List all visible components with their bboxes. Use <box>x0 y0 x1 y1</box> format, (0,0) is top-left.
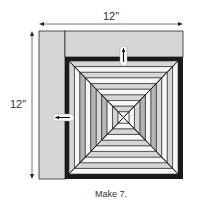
ring-segment <box>145 89 150 146</box>
ring-segment <box>69 168 178 174</box>
ring-segment <box>102 95 146 101</box>
caption-text: Make 7. <box>95 189 127 199</box>
height-dimension-label: 12" <box>10 99 26 110</box>
ring-segment <box>85 151 161 157</box>
quilt-block-diagram <box>0 0 198 204</box>
ring-segment <box>80 72 85 162</box>
width-dimension-line <box>39 22 183 26</box>
ring-segment <box>151 84 156 152</box>
ring-segment <box>80 157 167 163</box>
ring-segment <box>74 163 172 169</box>
pressing-arrow-left-icon <box>53 114 74 121</box>
ring-segment <box>74 67 79 169</box>
ring-segment <box>96 89 101 146</box>
ring-segment <box>91 84 156 90</box>
ring-segment <box>96 140 151 146</box>
height-dimension-line <box>30 31 34 179</box>
ring-segment <box>74 67 172 73</box>
ring-segment <box>162 72 167 162</box>
pressing-arrow-up-icon <box>120 46 127 66</box>
ring-segment <box>91 146 156 152</box>
log-cabin-rings <box>69 61 178 174</box>
ring-segment <box>140 95 145 140</box>
ring-segment <box>85 78 161 84</box>
ring-segment <box>156 78 161 157</box>
ring-segment <box>85 78 90 157</box>
width-dimension-label: 12" <box>103 11 119 22</box>
caption: Make 7. <box>0 189 198 199</box>
ring-segment <box>80 72 167 78</box>
ring-segment <box>173 61 178 174</box>
ring-segment <box>96 89 151 95</box>
ring-segment <box>167 67 172 169</box>
ring-segment <box>91 84 96 152</box>
left-strip <box>39 31 65 179</box>
ring-segment <box>102 134 146 140</box>
ring-segment <box>102 95 107 140</box>
